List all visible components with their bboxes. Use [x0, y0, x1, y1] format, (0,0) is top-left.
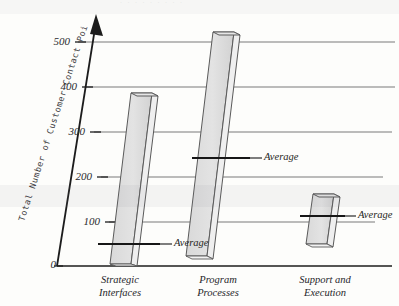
y-tick-label-500: 500 [36, 35, 70, 47]
average-label-support-and-execution: Average [358, 209, 392, 220]
category-line-2: Execution [270, 286, 380, 299]
category-line-2: Interfaces [65, 286, 175, 299]
average-label-program-processes: Average [264, 151, 298, 162]
y-tick-label-0: 0 [22, 258, 56, 270]
y-tick-label-100: 100 [66, 215, 100, 227]
figure-page: · · · · · · · · · [0, 0, 399, 306]
x-category-label-support-and-execution: Support and Execution [270, 273, 380, 299]
category-line-1: Program [163, 273, 273, 286]
x-category-label-program-processes: Program Processes [163, 273, 273, 299]
x-category-label-strategic-interfaces: Strategic Interfaces [65, 273, 175, 299]
y-tick-label-200: 200 [58, 170, 92, 182]
category-line-1: Support and [270, 273, 380, 286]
y-tick-label-300: 300 [51, 125, 85, 137]
bar-chart: Total Number of Customer Contact Poi 500… [0, 0, 399, 306]
y-tick-label-400: 400 [43, 80, 77, 92]
average-label-strategic-interfaces: Average [174, 237, 208, 248]
category-line-2: Processes [163, 286, 273, 299]
category-line-1: Strategic [65, 273, 175, 286]
bar-strategic-interfaces [110, 93, 158, 266]
bar-program-processes [186, 32, 240, 259]
bar-support-and-execution [306, 194, 340, 247]
